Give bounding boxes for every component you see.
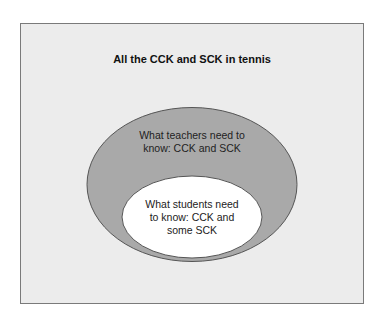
inner-set-label: What students need to know: CCK and some… [132, 198, 252, 237]
outer-set-label: What teachers need to know: CCK and SCK [120, 129, 264, 155]
venn-ellipses [0, 0, 385, 322]
